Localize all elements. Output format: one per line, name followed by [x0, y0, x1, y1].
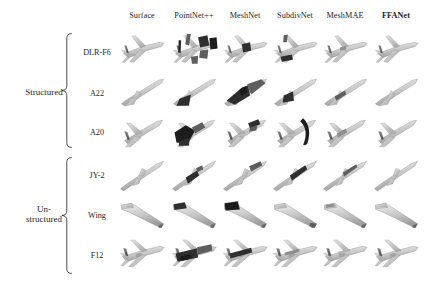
mesh-thumbnail-f12-subdivnet — [269, 235, 321, 275]
column-header-meshnet: MeshNet — [230, 11, 261, 20]
mesh-thumbnail-dlr_f6-pointnet2 — [168, 30, 220, 70]
mesh-thumbnail-dlr_f6-meshmae — [319, 30, 371, 70]
mesh-thumbnail-a22-pointnet2 — [168, 72, 220, 112]
row-label-jy2: JY-2 — [89, 171, 104, 180]
mesh-thumbnail-a20-surface — [116, 112, 168, 152]
mesh-thumbnail-dlr_f6-meshnet — [219, 30, 271, 70]
mesh-thumbnail-wing-surface — [116, 194, 168, 234]
column-header-surface: Surface — [129, 11, 155, 20]
mesh-thumbnail-jy2-pointnet2 — [168, 155, 220, 195]
mesh-thumbnail-a22-ffanet — [370, 72, 422, 112]
column-header-subdivnet: SubdivNet — [277, 11, 313, 20]
mesh-thumbnail-jy2-surface — [116, 155, 168, 195]
column-header-meshmae: MeshMAE — [326, 11, 363, 20]
mesh-thumbnail-wing-pointnet2 — [168, 194, 220, 234]
mesh-thumbnail-a20-subdivnet — [269, 112, 321, 152]
mesh-thumbnail-a20-meshnet — [219, 112, 271, 152]
mesh-thumbnail-a20-ffanet — [370, 112, 422, 152]
mesh-thumbnail-wing-meshnet — [219, 194, 271, 234]
mesh-thumbnail-f12-meshmae — [319, 235, 371, 275]
row-label-a20: A20 — [90, 128, 104, 137]
mesh-thumbnail-f12-surface — [116, 235, 168, 275]
mesh-thumbnail-jy2-ffanet — [370, 155, 422, 195]
mesh-thumbnail-f12-ffanet — [370, 235, 422, 275]
mesh-thumbnail-a22-meshmae — [319, 72, 371, 112]
mesh-thumbnail-dlr_f6-surface — [116, 30, 168, 70]
row-label-wing: Wing — [88, 211, 106, 220]
mesh-thumbnail-wing-ffanet — [370, 194, 422, 234]
row-label-f12: F12 — [91, 251, 104, 260]
group-label-line: Structured — [25, 87, 63, 97]
mesh-thumbnail-jy2-subdivnet — [269, 155, 321, 195]
mesh-thumbnail-a20-meshmae — [319, 112, 371, 152]
group-label-unstructured: Un-structured — [26, 204, 62, 224]
column-header-ffanet: FFANet — [382, 11, 410, 20]
row-label-dlr_f6: DLR-F6 — [83, 48, 111, 57]
mesh-thumbnail-wing-meshmae — [319, 194, 371, 234]
comparison-figure: SurfacePointNet++MeshNetSubdivNetMeshMAE… — [0, 0, 428, 281]
group-label-line: structured — [26, 214, 62, 224]
mesh-thumbnail-f12-meshnet — [219, 235, 271, 275]
column-header-pointnet2: PointNet++ — [174, 11, 213, 20]
mesh-thumbnail-a22-subdivnet — [269, 72, 321, 112]
group-label-structured: Structured — [25, 87, 63, 97]
mesh-thumbnail-dlr_f6-subdivnet — [269, 30, 321, 70]
mesh-thumbnail-jy2-meshmae — [319, 155, 371, 195]
mesh-thumbnail-a22-surface — [116, 72, 168, 112]
mesh-thumbnail-f12-pointnet2 — [168, 235, 220, 275]
mesh-thumbnail-dlr_f6-ffanet — [370, 30, 422, 70]
row-label-a22: A22 — [90, 89, 104, 98]
mesh-thumbnail-a22-meshnet — [219, 72, 271, 112]
mesh-thumbnail-jy2-meshnet — [219, 155, 271, 195]
group-brace-unstructured — [61, 157, 72, 274]
mesh-thumbnail-wing-subdivnet — [269, 194, 321, 234]
group-label-line: Un- — [26, 204, 62, 214]
mesh-thumbnail-a20-pointnet2 — [168, 112, 220, 152]
